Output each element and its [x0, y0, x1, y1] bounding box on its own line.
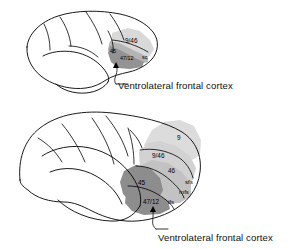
- area-label-sc-top: sc: [142, 54, 148, 60]
- top-sylvian-outline: [43, 51, 109, 82]
- bottom-caption-leader: [153, 212, 156, 229]
- area-label-45-top: 45: [110, 48, 116, 54]
- area-label-9-bottom: 9: [177, 134, 181, 141]
- brain-figure: 9/46 45 47/12 sc: [0, 0, 295, 249]
- bottom-brain-panel: 9 9/46 46 45 47/12 sfs mfs ifs: [20, 112, 201, 229]
- sulcus-label-ifs: ifs: [168, 198, 174, 205]
- area-label-46-bottom: 46: [168, 167, 176, 174]
- bottom-temporal-inner: [50, 169, 122, 204]
- caption-ventrolateral-frontal-cortex-top: Ventrolateral frontal cortex: [118, 80, 233, 91]
- area-label-9-46-top: 9/46: [125, 37, 138, 44]
- area-label-47-12-bottom: 47/12: [143, 198, 159, 205]
- top-sulcus-2: [60, 17, 71, 46]
- sulcus-label-sfs: sfs: [185, 178, 193, 185]
- area-label-9-46-bottom: 9/46: [152, 152, 165, 159]
- caption-ventrolateral-frontal-cortex-bottom: Ventrolateral frontal cortex: [158, 232, 273, 243]
- bottom-sulcus-postcentral: [62, 124, 85, 162]
- top-sulcus-3: [86, 12, 102, 44]
- bottom-sulcus-central: [92, 118, 114, 164]
- bottom-sulcus-short-a: [130, 130, 142, 148]
- brain-diagram-svg: 9/46 45 47/12 sc: [0, 0, 295, 249]
- area-label-47-12-top: 47/12: [120, 55, 134, 61]
- top-sulcus-1: [44, 24, 50, 50]
- bottom-sulcus-superior: [38, 138, 62, 162]
- sulcus-label-mfs: mfs: [179, 188, 189, 195]
- area-label-45-bottom: 45: [138, 179, 146, 186]
